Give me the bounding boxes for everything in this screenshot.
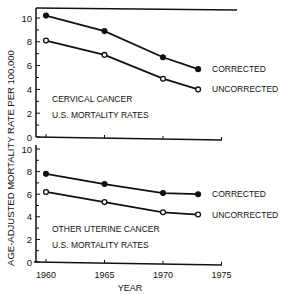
x-tick-label: 1960 — [36, 270, 56, 280]
y-tick-label: 4 — [27, 211, 32, 222]
data-point — [161, 76, 166, 81]
legend-label-uncorrected: UNCORRECTED — [212, 84, 278, 94]
y-tick-label: 10 — [21, 13, 32, 24]
x-axis-line — [34, 262, 222, 265]
panel-title: CERVICAL CANCER — [52, 94, 132, 104]
y-tick-label: 8 — [27, 166, 32, 177]
panel-title: OTHER UTERINE CANCER — [52, 224, 160, 234]
y-axis-label: AGE-ADJUSTED MORTALITY RATE PER 100,000 — [5, 50, 16, 266]
mortality-chart: AGE-ADJUSTED MORTALITY RATE PER 100,000 … — [0, 0, 288, 294]
legend-label-corrected: CORRECTED — [212, 64, 266, 74]
series-line-uncorrected — [46, 192, 198, 215]
cervical-cancer-panel: 0246810CORRECTEDUNCORRECTEDCERVICAL CANC… — [21, 8, 278, 143]
x-axis: 1960196519701975 — [34, 259, 232, 280]
x-tick-label: 1965 — [94, 270, 114, 280]
data-point — [196, 212, 201, 217]
other-uterine-cancer-panel: 0246810CORRECTEDUNCORRECTEDOTHER UTERINE… — [21, 144, 278, 268]
data-point — [44, 190, 49, 195]
data-point — [161, 191, 166, 196]
data-point — [44, 38, 49, 43]
panel-divider — [36, 137, 222, 140]
data-point — [196, 87, 201, 92]
panel-subtitle: U.S. MORTALITY RATES — [52, 240, 149, 250]
data-point — [161, 210, 166, 215]
data-point — [161, 55, 166, 60]
y-tick-label: 0 — [27, 257, 32, 268]
data-point — [196, 67, 201, 72]
x-axis-label: YEAR — [118, 283, 143, 293]
data-point — [102, 182, 107, 187]
y-tick-label: 8 — [27, 36, 32, 47]
y-tick-label: 2 — [27, 108, 32, 119]
x-tick-label: 1975 — [211, 270, 231, 280]
x-tick-label: 1970 — [153, 270, 173, 280]
legend-label-corrected: CORRECTED — [212, 189, 266, 199]
y-tick-label: 6 — [27, 189, 32, 200]
y-tick-label: 4 — [27, 84, 32, 95]
data-point — [102, 200, 107, 205]
data-point — [196, 192, 201, 197]
y-tick-label: 2 — [27, 234, 32, 245]
y-tick-label: 0 — [27, 132, 32, 143]
data-point — [44, 13, 49, 18]
legend-label-uncorrected: UNCORRECTED — [212, 210, 278, 220]
data-point — [102, 29, 107, 34]
y-tick-label: 10 — [21, 144, 32, 155]
top-frame-line — [36, 8, 237, 10]
panel-subtitle: U.S. MORTALITY RATES — [52, 110, 149, 120]
y-tick-label: 6 — [27, 60, 32, 71]
data-point — [102, 52, 107, 57]
series-line-corrected — [46, 174, 198, 194]
series-line-uncorrected — [46, 41, 198, 90]
data-point — [44, 171, 49, 176]
